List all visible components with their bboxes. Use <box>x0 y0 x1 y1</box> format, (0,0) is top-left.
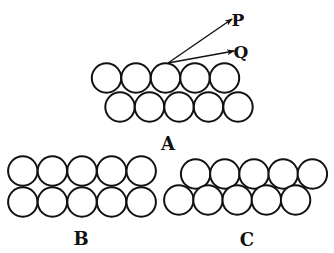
sphere <box>135 92 164 121</box>
sphere <box>210 63 239 92</box>
ray-arrow-p <box>168 19 232 63</box>
sphere <box>38 187 67 216</box>
sphere <box>281 185 310 214</box>
ray-label-p: P <box>232 10 245 30</box>
sphere <box>8 156 37 185</box>
sphere <box>67 156 96 185</box>
sphere <box>67 187 96 216</box>
sphere <box>151 63 180 92</box>
sphere <box>269 159 298 188</box>
panel-a: PQA <box>92 10 253 154</box>
sphere <box>210 159 239 188</box>
ray-label-q: Q <box>234 42 249 62</box>
sphere <box>121 63 150 92</box>
sphere <box>97 156 126 185</box>
sphere <box>164 185 193 214</box>
sphere <box>223 92 252 121</box>
sphere <box>193 185 222 214</box>
sphere <box>92 63 121 92</box>
sphere <box>8 187 37 216</box>
panel-c: C <box>164 159 327 250</box>
sphere <box>105 92 134 121</box>
panel-label-c: C <box>240 229 254 250</box>
sphere <box>239 159 268 188</box>
panel-label-b: B <box>73 228 88 249</box>
sphere <box>97 187 126 216</box>
sphere <box>127 187 156 216</box>
sphere <box>181 159 210 188</box>
sphere <box>127 156 156 185</box>
sphere <box>298 159 327 188</box>
sphere <box>180 63 209 92</box>
sphere <box>164 92 193 121</box>
sphere <box>223 185 252 214</box>
sphere <box>194 92 223 121</box>
sphere <box>38 156 67 185</box>
panel-label-a: A <box>160 133 176 154</box>
sphere-packing-diagram: PQA B C <box>0 0 334 253</box>
sphere <box>252 185 281 214</box>
panel-b: B <box>8 156 156 249</box>
